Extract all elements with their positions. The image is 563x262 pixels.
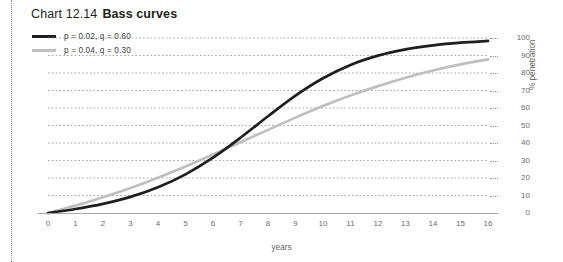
- series-line: [48, 41, 488, 213]
- y-tick-label: 90: [500, 52, 530, 60]
- y-tick-label: 10: [500, 192, 530, 200]
- y-tick-leader: [490, 143, 498, 144]
- page-title: Chart 12.14Bass curves: [31, 7, 177, 21]
- x-tick-label: 15: [451, 220, 471, 228]
- x-tick-label: 16: [478, 220, 498, 228]
- x-tick-label: 14: [423, 220, 443, 228]
- x-tick-label: 4: [148, 220, 168, 228]
- y-tick-leader: [490, 178, 498, 179]
- x-tick-label: 12: [368, 220, 388, 228]
- chart-title-text: Bass curves: [102, 7, 177, 21]
- x-tick-label: 7: [231, 220, 251, 228]
- y-tick-label: 60: [500, 104, 530, 112]
- page-margin-rule: [11, 0, 12, 262]
- y-tick-leader: [490, 73, 498, 74]
- x-tick-label: 1: [66, 220, 86, 228]
- x-tick-label: 8: [258, 220, 278, 228]
- x-tick-label: 13: [396, 220, 416, 228]
- x-tick-label: 0: [38, 220, 58, 228]
- chart-page: Chart 12.14Bass curves p = 0.02, q = 0.6…: [0, 0, 563, 262]
- y-tick-leader: [490, 108, 498, 109]
- series-lines: [48, 41, 488, 213]
- y-tick-label: 0: [500, 209, 530, 217]
- gridlines: [48, 38, 488, 213]
- x-tick-label: 11: [341, 220, 361, 228]
- y-tick-label: 50: [500, 122, 530, 130]
- chart-number: Chart 12.14: [31, 7, 97, 21]
- x-axis-line: [38, 213, 496, 214]
- x-tick-label: 3: [121, 220, 141, 228]
- x-tick-label: 2: [93, 220, 113, 228]
- plot-svg: [48, 38, 488, 213]
- x-tick-label: 5: [176, 220, 196, 228]
- y-tick-leader: [490, 161, 498, 162]
- x-axis-label: years: [0, 243, 563, 252]
- plot-area: [48, 38, 488, 213]
- y-tick-leader: [490, 56, 498, 57]
- series-line: [48, 59, 488, 213]
- y-tick-label: 100: [500, 34, 530, 42]
- y-tick-leader: [490, 38, 498, 39]
- y-tick-label: 70: [500, 87, 530, 95]
- y-tick-leader: [490, 91, 498, 92]
- y-tick-label: 30: [500, 157, 530, 165]
- y-tick-label: 40: [500, 139, 530, 147]
- x-tick-label: 9: [286, 220, 306, 228]
- y-tick-leader: [490, 126, 498, 127]
- y-axis-label: % penetration: [528, 39, 537, 90]
- y-tick-label: 80: [500, 69, 530, 77]
- x-tick-label: 10: [313, 220, 333, 228]
- y-tick-label: 20: [500, 174, 530, 182]
- y-tick-leader: [490, 196, 498, 197]
- x-tick-label: 6: [203, 220, 223, 228]
